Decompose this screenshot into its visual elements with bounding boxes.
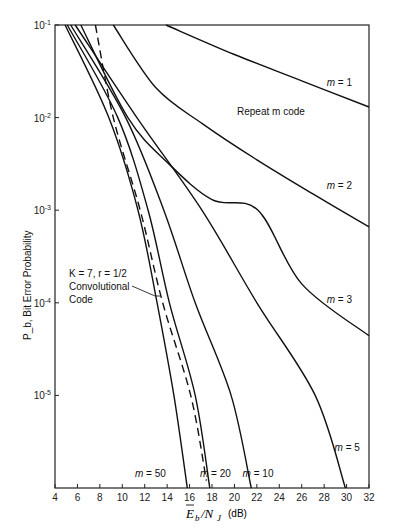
curve-label: m = 20 [200, 468, 231, 479]
x-tick-label: 14 [162, 492, 174, 503]
x-tick-label: 8 [97, 492, 103, 503]
x-tick-label: 22 [251, 492, 263, 503]
x-tick-label: 26 [296, 492, 308, 503]
x-tick-label: 24 [274, 492, 286, 503]
conv-code-label-3: Code [69, 294, 93, 305]
y-tick-label: 10-2 [34, 112, 51, 124]
curve-m-1 [166, 25, 369, 107]
curves [65, 25, 369, 488]
x-tick-label: 16 [184, 492, 196, 503]
conv-code-pointer [132, 286, 161, 296]
y-tick-label: 10-5 [34, 389, 51, 401]
ber-chart: 468101214161820222426283032 10-110-210-3… [0, 0, 395, 532]
svg-text:E: E [185, 506, 194, 521]
x-tick-label: 4 [52, 492, 58, 503]
x-axis-ticks: 468101214161820222426283032 [52, 484, 375, 503]
curve-label: m = 2 [327, 180, 353, 191]
y-tick-label: 10-1 [34, 19, 51, 31]
conv-code-label-2: Convolutional [69, 281, 130, 292]
x-tick-label: 28 [319, 492, 331, 503]
curve-m-20 [67, 25, 210, 488]
x-tick-label: 18 [206, 492, 218, 503]
curve-label: m = 3 [327, 294, 353, 305]
svg-text:/N: /N [200, 506, 215, 521]
x-axis-label: E b /N J (dB) [185, 505, 247, 523]
repeat-code-label: Repeat m code [237, 106, 305, 117]
curve-label: m = 10 [243, 468, 274, 479]
svg-text:(dB): (dB) [228, 508, 247, 519]
curve-m-2 [113, 25, 369, 227]
x-tick-label: 10 [117, 492, 129, 503]
svg-text:b: b [195, 513, 200, 523]
curve-label: m = 1 [327, 77, 353, 88]
x-tick-label: 12 [139, 492, 151, 503]
x-tick-label: 6 [75, 492, 81, 503]
y-tick-label: 10-4 [34, 297, 51, 309]
conv-code-label-1: K = 7, r = 1/2 [69, 268, 127, 279]
x-tick-label: 30 [341, 492, 353, 503]
x-tick-label: 32 [363, 492, 375, 503]
x-tick-label: 20 [229, 492, 241, 503]
curve-labels: m = 1m = 2m = 3m = 5m = 10m = 20m = 50 [135, 77, 360, 480]
curve-label: m = 5 [335, 442, 361, 453]
y-axis-label: P_b, Bit Error Probability [22, 231, 33, 341]
curve-m-50 [65, 25, 187, 488]
y-tick-label: 10-3 [34, 204, 51, 216]
curve-label: m = 50 [135, 468, 166, 479]
plot-frame [55, 25, 369, 488]
curve-m-10 [71, 25, 252, 488]
svg-text:J: J [217, 513, 222, 523]
